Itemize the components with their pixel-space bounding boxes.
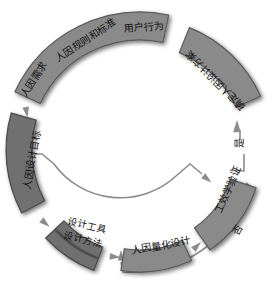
- left-to-tools-arrowhead: [39, 217, 49, 226]
- right-arc-segment[interactable]: [179, 28, 260, 108]
- top-to-left-arrowhead: [22, 106, 29, 117]
- quant-to-verify-arrowhead: [191, 242, 201, 252]
- inner-flow-arrowhead: [201, 173, 211, 182]
- decision-yes-label: 是: [234, 138, 245, 148]
- design-cycle-diagram: 人因需求 人因规则和标准 用户行为 确定人因设计方案 人因设计目标 设计工具 设…: [0, 0, 277, 282]
- inner-flow-line: [22, 154, 202, 198]
- yes-flow-arrowhead: [233, 120, 241, 132]
